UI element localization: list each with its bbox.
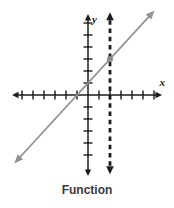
vertical-dashed-line-top-arrowhead: [106, 12, 114, 20]
y-axis-label: y: [90, 13, 97, 25]
figure-caption: Function: [0, 183, 174, 197]
x-axis-right-arrowhead: [156, 92, 163, 98]
intersection-point: [107, 56, 113, 62]
function-graph-figure: xy Function: [0, 0, 174, 208]
coordinate-plane-svg: xy: [0, 0, 174, 208]
function-line: [20, 16, 149, 157]
y-axis-top-arrowhead: [85, 14, 91, 21]
y-axis-bottom-arrowhead: [85, 170, 91, 177]
x-axis-left-arrowhead: [12, 92, 19, 98]
x-axis-label: x: [159, 76, 166, 88]
vertical-dashed-line-bottom-arrowhead: [106, 166, 114, 174]
